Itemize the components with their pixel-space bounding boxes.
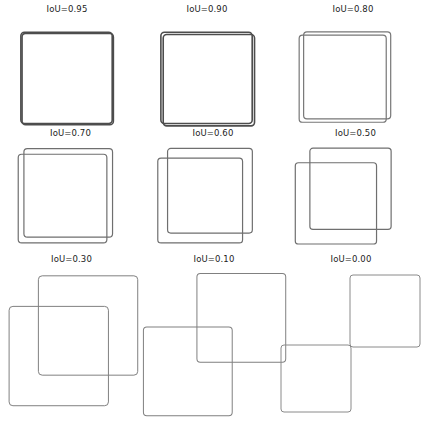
- iou-box-b: [158, 158, 243, 243]
- iou-box-a: [38, 276, 137, 375]
- iou-panel-0.50: IoU=0.50: [288, 128, 423, 248]
- iou-panel-label: IoU=0.90: [148, 4, 266, 14]
- iou-panel-0.60: IoU=0.60: [148, 128, 278, 248]
- iou-box-a: [197, 273, 286, 362]
- iou-box-a: [168, 148, 253, 233]
- iou-figure: IoU=0.95IoU=0.90IoU=0.80IoU=0.70IoU=0.60…: [0, 0, 425, 427]
- iou-panel-0.30: IoU=0.30: [4, 254, 139, 424]
- iou-box-b: [299, 35, 386, 122]
- iou-panel-label: IoU=0.80: [288, 4, 418, 14]
- iou-box-a: [350, 275, 420, 347]
- iou-panel-label: IoU=0.60: [148, 128, 278, 138]
- iou-panel-canvas: [148, 144, 278, 244]
- iou-box-a: [21, 32, 112, 123]
- iou-panel-0.10: IoU=0.10: [140, 254, 288, 424]
- iou-panel-0.80: IoU=0.80: [288, 4, 418, 122]
- iou-panel-label: IoU=0.70: [8, 128, 133, 138]
- iou-panel-label: IoU=0.30: [4, 254, 139, 264]
- iou-box-b: [163, 35, 254, 126]
- iou-box-b: [281, 345, 351, 412]
- iou-box-a: [161, 32, 252, 123]
- iou-panel-canvas: [8, 144, 133, 244]
- iou-panel-canvas: [148, 24, 266, 120]
- iou-panel-canvas: [278, 272, 424, 427]
- iou-box-b: [18, 154, 107, 243]
- iou-panel-label: IoU=0.10: [140, 254, 288, 264]
- iou-panel-canvas: [4, 272, 139, 420]
- iou-box-a: [304, 32, 391, 119]
- iou-box-b: [295, 163, 376, 244]
- iou-panel-0.90: IoU=0.90: [148, 4, 266, 122]
- iou-panel-0.70: IoU=0.70: [8, 128, 133, 248]
- iou-panel-label: IoU=0.95: [8, 4, 126, 14]
- iou-box-a: [24, 149, 113, 238]
- iou-panel-canvas: [288, 24, 418, 120]
- iou-box-a: [310, 148, 391, 229]
- iou-panel-label: IoU=0.50: [288, 128, 423, 138]
- iou-panel-canvas: [288, 144, 423, 244]
- iou-panel-canvas: [140, 270, 288, 425]
- iou-panel-0.95: IoU=0.95: [8, 4, 126, 122]
- iou-box-b: [9, 306, 108, 405]
- iou-box-b: [22, 33, 113, 124]
- iou-panel-0.00: IoU=0.00: [278, 254, 424, 424]
- iou-box-b: [143, 327, 232, 416]
- iou-panel-canvas: [8, 24, 126, 120]
- iou-panel-label: IoU=0.00: [278, 254, 424, 264]
